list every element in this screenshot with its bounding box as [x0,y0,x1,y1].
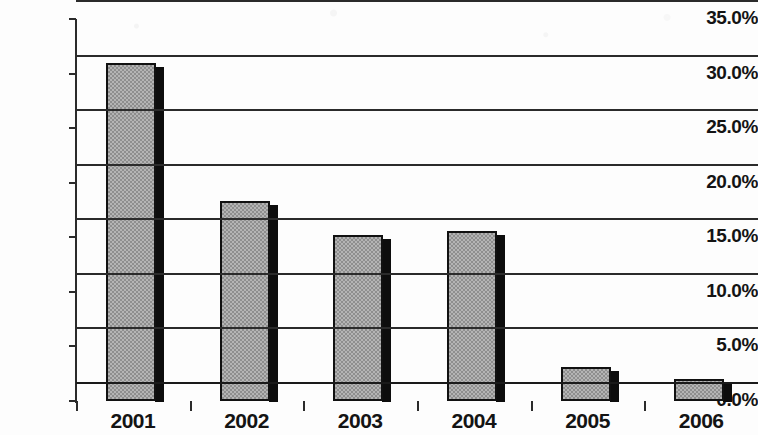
bar-column [333,235,383,401]
x-axis-label: 2005 [531,409,645,433]
x-axis-label: 2001 [76,409,190,433]
x-axis-label: 2003 [303,409,417,433]
gridline [76,327,758,329]
bar-shadow [269,205,278,402]
gridline [76,55,758,57]
x-axis-label: 2006 [644,409,758,433]
bar-chart: 0.0%5.0%10.0%15.0%20.0%25.0%30.0%35.0% 2… [0,0,758,435]
gridline [76,218,758,220]
bar-column [106,63,156,401]
bar-2001 [106,63,156,401]
bar-column [447,231,497,401]
bar-2004 [447,231,497,401]
x-axis-label: 2002 [190,409,304,433]
x-axis-label: 2004 [417,409,531,433]
bar-shadow [496,235,505,402]
bar-2005 [561,367,611,401]
bar-shadow [382,239,391,402]
gridline [76,109,758,111]
gridline [76,273,758,275]
bar-column [220,201,270,401]
bar-2002 [220,201,270,401]
gridline [76,164,758,166]
bar-shadow [610,371,619,402]
plot-area [76,19,758,401]
bar-column [561,367,611,401]
gridline [76,0,758,2]
bar-shadow [723,383,732,402]
bar-shadow [155,67,164,402]
bar-2003 [333,235,383,401]
gridline [76,382,758,384]
